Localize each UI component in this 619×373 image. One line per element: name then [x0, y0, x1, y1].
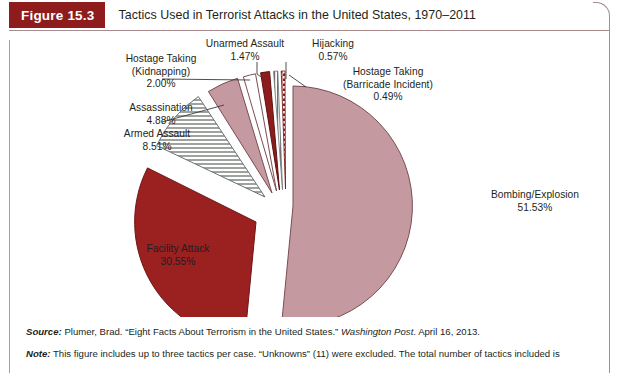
- label-hostage-kidnapping-value: 2.00%: [100, 78, 222, 91]
- label-armed-assault: Armed Assault 8.51%: [92, 128, 222, 153]
- label-assassination-name: Assassination: [100, 102, 222, 115]
- pie-chart: Unarmed Assault 1.47% Hijacking 0.57% Ho…: [10, 31, 608, 317]
- label-hijacking-name: Hijacking: [285, 38, 381, 51]
- figure-number-badge: Figure 15.3: [9, 2, 105, 28]
- figure-container: Figure 15.3 Tactics Used in Terrorist At…: [0, 0, 619, 373]
- label-armed-assault-name: Armed Assault: [92, 128, 222, 141]
- source-label: Source:: [26, 326, 62, 337]
- label-assassination: Assassination 4.88%: [100, 102, 222, 127]
- label-hostage-barricade-line1: Hostage Taking: [308, 66, 468, 79]
- note-text: This figure includes up to three tactics…: [51, 348, 560, 359]
- source-text-part-b: . April 16, 2013.: [413, 326, 480, 337]
- label-hostage-kidnapping-line2: (Kidnapping): [100, 66, 222, 79]
- label-hijacking: Hijacking 0.57%: [285, 38, 381, 63]
- label-hostage-barricade-line2: (Barricade Incident): [308, 79, 468, 92]
- label-hostage-barricade: Hostage Taking (Barricade Incident) 0.49…: [308, 66, 468, 104]
- note-label: Note:: [26, 348, 51, 359]
- figure-title: Tactics Used in Terrorist Attacks in the…: [105, 2, 595, 28]
- label-facility-attack-value: 30.55%: [113, 256, 243, 269]
- label-bombing-explosion-name: Bombing/Explosion: [462, 189, 608, 202]
- leader-line-hostage-barricade: [289, 75, 306, 87]
- label-facility-attack-name: Facility Attack: [113, 243, 243, 256]
- label-bombing-explosion-value: 51.53%: [462, 202, 608, 215]
- note-line: Note: This figure includes up to three t…: [26, 347, 596, 361]
- pie-slice-bombing: [282, 86, 413, 317]
- source-publication: Washington Post: [341, 326, 413, 337]
- label-armed-assault-value: 8.51%: [92, 141, 222, 154]
- label-hostage-kidnapping: Hostage Taking (Kidnapping) 2.00%: [100, 53, 222, 91]
- source-text-part-a: Plumer, Brad. “Eight Facts About Terrori…: [62, 326, 341, 337]
- source-line: Source: Plumer, Brad. “Eight Facts About…: [26, 325, 596, 339]
- label-hostage-kidnapping-line1: Hostage Taking: [100, 53, 222, 66]
- label-assassination-value: 4.88%: [100, 115, 222, 128]
- label-hijacking-value: 0.57%: [285, 51, 381, 64]
- frame-corner-decoration: [593, 2, 610, 19]
- label-bombing-explosion: Bombing/Explosion 51.53%: [462, 189, 608, 214]
- label-facility-attack: Facility Attack 30.55%: [113, 243, 243, 268]
- label-hostage-barricade-value: 0.49%: [308, 91, 468, 104]
- figure-footer: Source: Plumer, Brad. “Eight Facts About…: [26, 325, 596, 369]
- frame-right-rule: [609, 16, 610, 373]
- figure-header: Figure 15.3 Tactics Used in Terrorist At…: [9, 2, 595, 28]
